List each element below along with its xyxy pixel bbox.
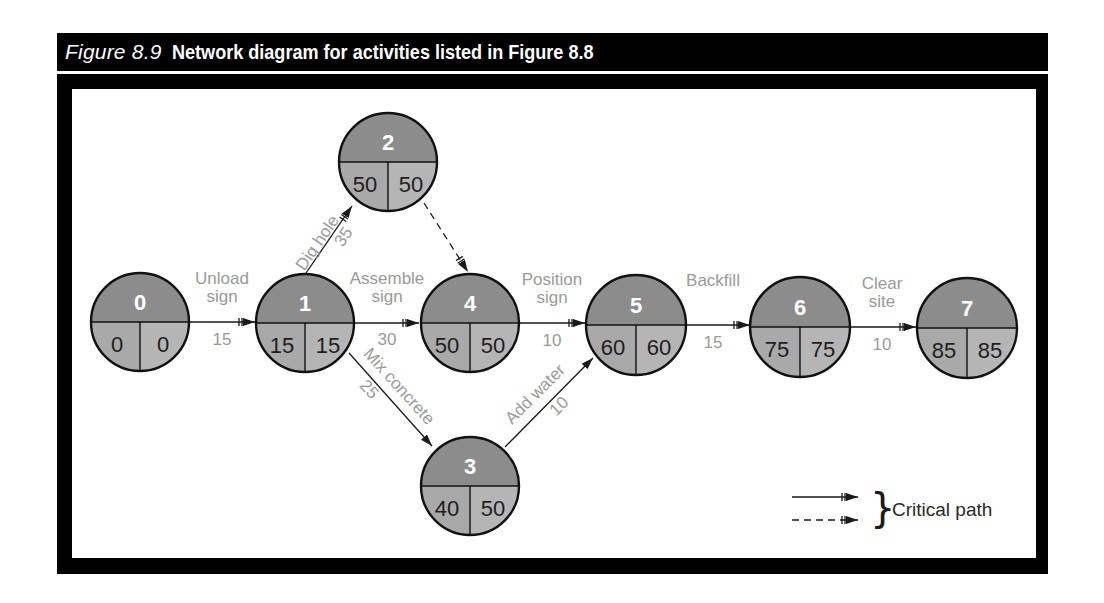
node-latest-start: 85: [978, 338, 1002, 363]
activity-name-line2: sign: [536, 288, 567, 307]
activity-dummy-2-4: [424, 203, 468, 272]
activity-mix-concrete: Mix concrete 25: [349, 344, 438, 446]
node-earliest-start: 50: [435, 333, 459, 358]
activity-position-sign: Position sign 10: [520, 270, 585, 350]
network-diagram: Unload sign 15 Dig hole 35 Assemble sign…: [0, 0, 1104, 603]
dashed-arrow-line: [424, 203, 468, 272]
activity-name-line1: Clear: [862, 274, 903, 293]
node-id: 2: [382, 130, 394, 155]
node-1: 1 15 15: [256, 274, 354, 372]
node-earliest-start: 15: [270, 333, 294, 358]
node-latest-start: 50: [481, 333, 505, 358]
node-5: 5 60 60: [586, 275, 686, 375]
node-id: 0: [134, 290, 146, 315]
activity-name-line2: site: [869, 292, 895, 311]
node-latest-start: 60: [647, 335, 671, 360]
node-0: 0 0 0: [91, 273, 189, 371]
activity-duration: 10: [546, 393, 573, 420]
node-latest-start: 15: [316, 333, 340, 358]
node-earliest-start: 0: [111, 332, 123, 357]
activity-duration: 15: [704, 333, 723, 352]
legend-label: Critical path: [892, 499, 992, 520]
node-id: 4: [464, 291, 477, 316]
activity-duration: 25: [356, 376, 383, 403]
activity-dig-hole: Dig hole 35: [292, 206, 357, 274]
activity-assemble-sign: Assemble sign 30: [350, 269, 425, 349]
node-earliest-start: 75: [765, 337, 789, 362]
activity-duration: 10: [543, 331, 562, 350]
activity-clear-site: Clear site 10: [850, 274, 916, 354]
node-2: 2 50 50: [339, 113, 437, 211]
node-3: 3 40 50: [421, 437, 519, 535]
activity-name-line1: Unload: [195, 269, 249, 288]
node-earliest-start: 85: [932, 338, 956, 363]
node-id: 6: [794, 295, 806, 320]
activity-name-line2: sign: [206, 287, 237, 306]
activity-name: Backfill: [686, 271, 740, 290]
legend: } Critical path: [792, 485, 992, 531]
node-id: 1: [299, 291, 311, 316]
activity-duration: 15: [213, 330, 232, 349]
node-latest-start: 75: [811, 337, 835, 362]
node-earliest-start: 40: [435, 496, 459, 521]
node-7: 7 85 85: [917, 278, 1017, 378]
node-latest-start: 50: [399, 172, 423, 197]
activity-name-line2: sign: [371, 287, 402, 306]
activity-name-line1: Position: [522, 270, 582, 289]
activity-name-line1: Assemble: [350, 269, 425, 288]
activity-add-water: Add water 10: [501, 358, 593, 447]
node-latest-start: 50: [481, 496, 505, 521]
activity-duration: 10: [873, 335, 892, 354]
activity-duration: 30: [378, 330, 397, 349]
node-earliest-start: 60: [601, 335, 625, 360]
node-earliest-start: 50: [353, 172, 377, 197]
node-latest-start: 0: [157, 332, 169, 357]
activity-backfill: Backfill 15: [686, 271, 750, 352]
critical-ticks-icon: [456, 256, 464, 263]
node-id: 5: [630, 293, 642, 318]
activity-unload-sign: Unload sign 15: [190, 269, 255, 349]
node-6: 6 75 75: [750, 277, 850, 377]
node-id: 3: [464, 454, 476, 479]
node-id: 7: [961, 296, 973, 321]
node-4: 4 50 50: [421, 274, 519, 372]
